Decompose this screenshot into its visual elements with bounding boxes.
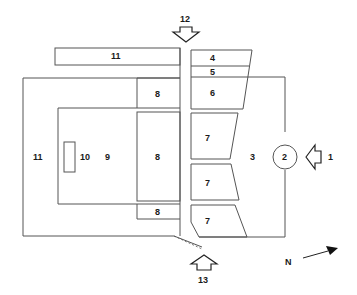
- label-10: 10: [80, 152, 90, 162]
- label-8-middle: 8: [155, 152, 160, 162]
- dashed-path: [174, 236, 202, 249]
- label-north: N: [285, 257, 292, 267]
- block-7-b: [191, 164, 239, 200]
- outer-boundary-right-lower: [199, 170, 285, 237]
- arrow-left-icon: [306, 145, 321, 169]
- arrow-up-icon: [191, 255, 217, 270]
- label-8-top: 8: [155, 89, 160, 99]
- outer-boundary-right: [247, 77, 285, 132]
- label-3: 3: [250, 152, 255, 162]
- north-arrow-icon: [326, 246, 338, 255]
- label-1: 1: [328, 152, 333, 162]
- arrow-down-icon: [173, 27, 199, 42]
- outer-boundary-left: [23, 78, 202, 247]
- label-12: 12: [180, 14, 190, 24]
- small-rect-10: [64, 142, 75, 172]
- label-inner-9: 9: [105, 152, 110, 162]
- label-7-b: 7: [205, 178, 210, 188]
- label-13: 13: [198, 275, 208, 285]
- block-7-c: [191, 205, 247, 237]
- label-2: 2: [282, 152, 287, 162]
- north-arrow-line: [303, 251, 328, 258]
- site-plan-diagram: 11 11 9 10 8 8 8 4 5 6 7 7 7 3 2 1 12 13: [0, 0, 357, 295]
- inner-area-9: [58, 108, 180, 204]
- block-7-a: [191, 113, 238, 159]
- label-7-a: 7: [205, 133, 210, 143]
- label-strip-11: 11: [111, 51, 121, 61]
- label-5: 5: [210, 67, 215, 77]
- label-outer-11: 11: [33, 152, 43, 162]
- label-7-c: 7: [205, 216, 210, 226]
- label-6: 6: [210, 88, 215, 98]
- label-4: 4: [210, 53, 215, 63]
- label-8-bottom: 8: [155, 207, 160, 217]
- block-4-5-6: [191, 50, 252, 109]
